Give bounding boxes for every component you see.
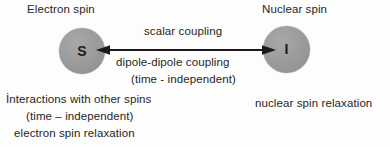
spin-coupling-diagram: Electron spin Nuclear spin S I scalar co… <box>0 0 390 147</box>
dipole-dipole-coupling-label: dipole-dipole coupling <box>116 56 229 69</box>
nuclear-spin-caption: Nuclear spin <box>262 3 327 16</box>
interactions-with-other-spins-label: İnteractions with other spins <box>6 93 151 106</box>
coupling-time-independent-label: (time - independent) <box>131 73 236 86</box>
electron-spin-relaxation-label: electron spin relaxation <box>14 127 135 140</box>
nuclear-spin-letter: I <box>284 41 288 57</box>
electron-spin-caption: Electron spin <box>27 3 95 16</box>
nuclear-spin-relaxation-label: nuclear spin relaxation <box>255 97 372 110</box>
electron-spin-letter: S <box>77 43 87 59</box>
interactions-time-independent-label: (time – independent) <box>26 110 133 123</box>
scalar-coupling-label: scalar coupling <box>144 25 222 38</box>
